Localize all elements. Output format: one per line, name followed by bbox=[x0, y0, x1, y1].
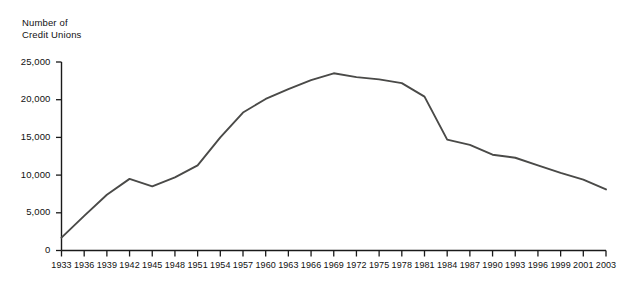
data-series-line bbox=[62, 73, 607, 237]
axis-lines bbox=[62, 62, 607, 251]
x-axis-ticks bbox=[62, 251, 607, 257]
y-axis-ticks bbox=[56, 62, 62, 251]
